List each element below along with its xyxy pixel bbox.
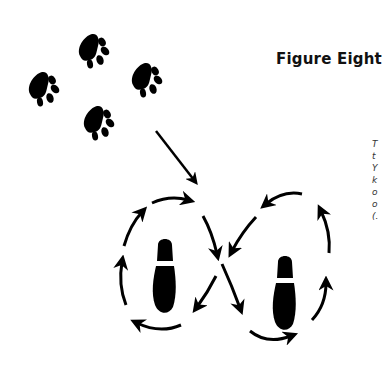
arrow-icon	[250, 331, 291, 340]
arrow-icon	[121, 262, 126, 305]
paw-print-icon	[84, 106, 116, 141]
arrow-icon	[197, 276, 216, 307]
arrow-icon	[312, 283, 326, 320]
paw-print-icon	[132, 63, 164, 98]
arrow-icon	[321, 211, 329, 253]
paw-print-icon	[29, 72, 61, 107]
entry-arrow-icon	[156, 131, 194, 180]
arrow-icon	[203, 216, 217, 254]
figure-eight-diagram	[0, 0, 382, 373]
paw-print-icon	[79, 34, 111, 69]
arrow-icon	[232, 217, 256, 251]
arrow-icon	[266, 193, 302, 204]
arrow-icon	[222, 264, 240, 308]
arrow-icon	[137, 323, 181, 329]
arrow-icon	[124, 212, 142, 246]
left-footprint-icon	[153, 239, 176, 313]
right-footprint-icon	[273, 256, 296, 330]
arrow-icon	[152, 198, 188, 203]
